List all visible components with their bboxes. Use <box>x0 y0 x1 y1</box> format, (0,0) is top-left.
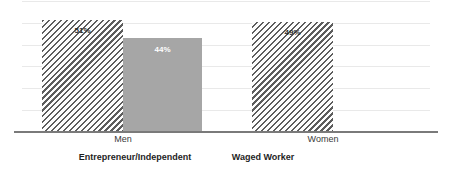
legend-item-1: Entrepreneur/Independent <box>55 151 215 163</box>
gridline <box>22 1 430 2</box>
x-tick-label-women: Women <box>292 133 354 146</box>
bar-value-label: 44% <box>123 46 202 54</box>
legend-item-2: Waged Worker <box>218 151 308 163</box>
x-tick-label-men: Men <box>92 133 154 146</box>
bar-men-entrepreneur[interactable]: 51% <box>42 20 123 132</box>
bar-women-entrepreneur[interactable]: 49% <box>252 22 333 132</box>
bar-value-label: 51% <box>42 27 123 35</box>
plot-area: 51%44%49% <box>0 0 452 132</box>
bar-value-label: 49% <box>252 29 333 37</box>
bar-men-waged[interactable]: 44% <box>123 38 202 132</box>
x-axis-line <box>14 131 438 133</box>
bar-chart: 51%44%49% MenWomen Entrepreneur/Independ… <box>0 0 452 173</box>
